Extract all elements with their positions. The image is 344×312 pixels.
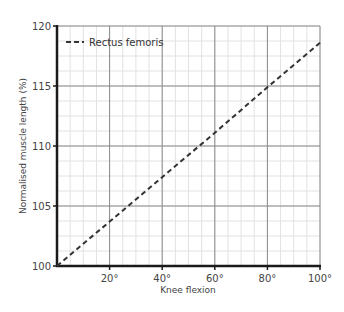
- x-tick-label: 80°: [259, 273, 277, 284]
- y-tick-label: 105: [32, 201, 51, 212]
- x-axis-label: Knee flexion: [160, 285, 216, 295]
- legend-label-rectus-femoris: Rectus femoris: [89, 37, 163, 48]
- line-chart: 10010511011512020°40°60°80°100° Rectus f…: [0, 0, 344, 312]
- y-tick-label: 115: [32, 81, 51, 92]
- x-tick-label: 100°: [308, 273, 332, 284]
- y-tick-label: 110: [32, 141, 51, 152]
- tick-labels: 10010511011512020°40°60°80°100°: [32, 21, 332, 285]
- y-tick-label: 120: [32, 21, 51, 32]
- y-axis-label: Normalised muscle length (%): [18, 78, 28, 214]
- x-tick-label: 60°: [206, 273, 224, 284]
- x-tick-label: 40°: [153, 273, 171, 284]
- y-tick-label: 100: [32, 261, 51, 272]
- legend: Rectus femoris: [66, 37, 163, 48]
- x-tick-label: 20°: [101, 273, 119, 284]
